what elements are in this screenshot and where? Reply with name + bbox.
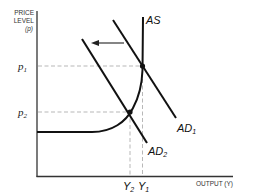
ad2-label: AD2	[147, 145, 167, 158]
ad-as-diagram: PRICE LEVEL (p) OUTPUT (Y) p1 p2 Y2 Y1 A…	[0, 0, 262, 196]
as-curve	[37, 17, 143, 132]
y-axis-title-line1: PRICE	[14, 9, 35, 16]
as-label: AS	[145, 14, 161, 26]
y2-label: Y2	[123, 180, 134, 193]
ad1-label: AD1	[176, 122, 196, 135]
p2-label: p2	[17, 106, 28, 120]
shift-left-arrow-icon	[91, 40, 124, 46]
y-axis-title-line3: (p)	[25, 25, 33, 33]
equilibrium-point-1	[140, 63, 145, 68]
equilibrium-point-2	[127, 109, 132, 114]
x-axis-title: OUTPUT (Y)	[196, 180, 233, 188]
p1-label: p1	[17, 60, 27, 74]
y1-label: Y1	[138, 180, 149, 193]
y-axis-title-line2: LEVEL	[14, 17, 35, 24]
